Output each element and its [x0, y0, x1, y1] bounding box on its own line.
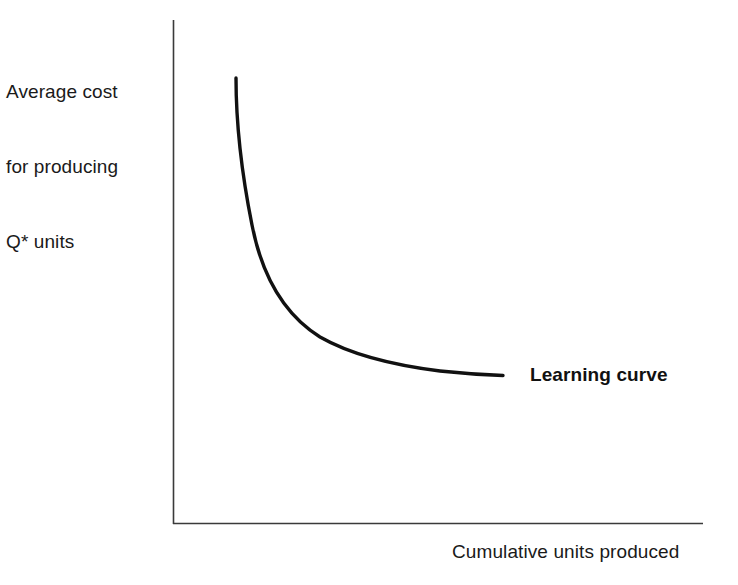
- y-axis-label-line-2: for producing: [6, 154, 118, 179]
- y-axis-label-line-1: Average cost: [6, 79, 118, 104]
- y-axis-label-line-3: Q* units: [6, 229, 118, 254]
- learning-curve-annotation: Learning curve: [530, 364, 668, 386]
- learning-curve-path: [236, 78, 503, 376]
- x-axis-label: Cumulative units produced: [452, 539, 679, 564]
- learning-curve-figure: Average cost for producing Q* units Cumu…: [0, 0, 738, 585]
- y-axis-label: Average cost for producing Q* units: [6, 29, 118, 304]
